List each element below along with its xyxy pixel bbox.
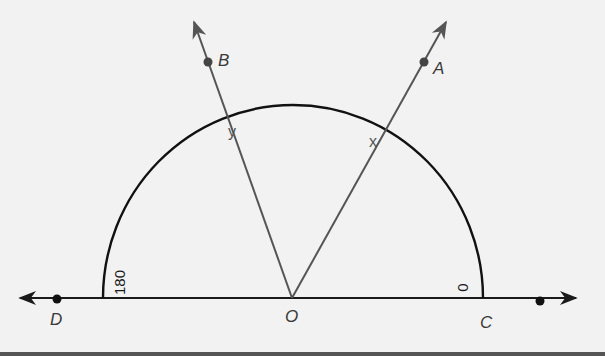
geometry-svg	[0, 0, 605, 356]
mark-y: y	[228, 124, 236, 140]
point-a	[420, 58, 429, 67]
scale-0: 0	[455, 283, 470, 291]
bottom-border	[0, 352, 605, 356]
label-c: C	[480, 314, 492, 331]
point-right	[536, 297, 545, 306]
mark-x: x	[369, 134, 377, 150]
label-b: B	[218, 52, 229, 69]
label-o: O	[285, 308, 298, 325]
label-a: A	[433, 60, 444, 77]
protractor-arc	[103, 105, 483, 298]
point-d	[53, 295, 62, 304]
point-b	[204, 58, 213, 67]
scale-180: 180	[112, 270, 127, 295]
diagram-canvas: B A D O C y x 180 0	[0, 0, 605, 356]
label-d: D	[50, 311, 62, 328]
